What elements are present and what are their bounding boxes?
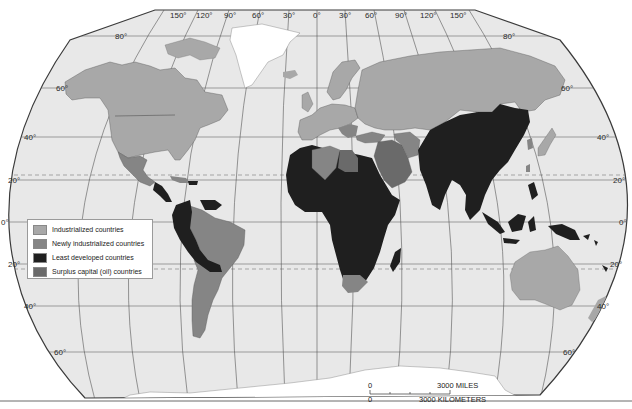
svg-text:40°: 40°	[597, 302, 609, 311]
svg-text:30°: 30°	[339, 11, 351, 20]
svg-text:30°: 30°	[283, 11, 295, 20]
svg-text:40°: 40°	[597, 133, 609, 142]
svg-text:150°: 150°	[170, 11, 187, 20]
legend-item-least-developed: Least developed countries	[33, 251, 147, 264]
svg-text:120°: 120°	[196, 11, 213, 20]
svg-text:0°: 0°	[1, 218, 9, 227]
svg-text:60°: 60°	[54, 348, 66, 357]
svg-text:60°: 60°	[561, 84, 573, 93]
svg-text:20°: 20°	[8, 176, 20, 185]
swatch-industrialized	[33, 225, 47, 235]
svg-text:80°: 80°	[503, 32, 515, 41]
legend-item-industrialized: Industrialized countries	[33, 223, 147, 236]
scale-miles-label: 3000 MILES	[437, 381, 478, 390]
svg-text:90°: 90°	[395, 11, 407, 20]
swatch-least-developed	[33, 253, 47, 263]
svg-text:0°: 0°	[313, 11, 321, 20]
svg-text:20°: 20°	[613, 176, 625, 185]
svg-text:150°: 150°	[450, 11, 467, 20]
swatch-surplus-oil	[33, 267, 47, 277]
svg-text:60°: 60°	[252, 11, 264, 20]
svg-text:40°: 40°	[24, 302, 36, 311]
south-korea	[527, 138, 533, 150]
svg-text:90°: 90°	[224, 11, 236, 20]
svg-text:40°: 40°	[24, 133, 36, 142]
legend-item-surplus-oil: Surplus capital (oil) countries	[33, 265, 147, 278]
haiti	[188, 181, 198, 185]
legend-item-newly-industrialized: Newly industrialized countries	[33, 237, 147, 250]
svg-text:20°: 20°	[610, 260, 622, 269]
svg-text:60°: 60°	[365, 11, 377, 20]
legend-label: Industrialized countries	[52, 226, 124, 233]
legend-label: Newly industrialized countries	[52, 240, 144, 247]
legend-label: Surplus capital (oil) countries	[52, 268, 142, 275]
legend: Industrialized countries Newly industria…	[27, 219, 153, 279]
svg-text:80°: 80°	[115, 32, 127, 41]
svg-text:0°: 0°	[619, 218, 627, 227]
svg-text:60°: 60°	[56, 84, 68, 93]
legend-label: Least developed countries	[52, 254, 134, 261]
scale-bar: 0 3000 MILES 0 3000 KILOMETERS	[362, 378, 512, 406]
svg-text:120°: 120°	[420, 11, 437, 20]
scale-miles-zero: 0	[368, 381, 372, 390]
scale-km-label: 3000 KILOMETERS	[419, 395, 486, 404]
world-map: 150° 120° 90° 60° 30° 0° 30° 60° 90° 120…	[0, 0, 632, 409]
svg-text:20°: 20°	[8, 260, 20, 269]
swatch-newly-industrialized	[33, 239, 47, 249]
scale-km-zero: 0	[368, 395, 372, 404]
svg-text:60°: 60°	[563, 348, 575, 357]
